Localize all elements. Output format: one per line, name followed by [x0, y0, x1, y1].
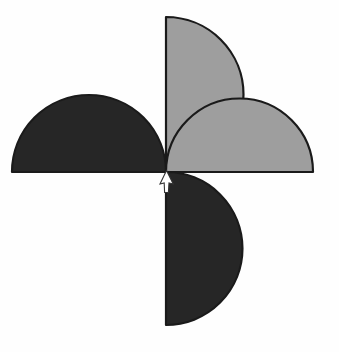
figure-canvas [0, 0, 339, 352]
pinwheel-diagram [0, 0, 339, 352]
